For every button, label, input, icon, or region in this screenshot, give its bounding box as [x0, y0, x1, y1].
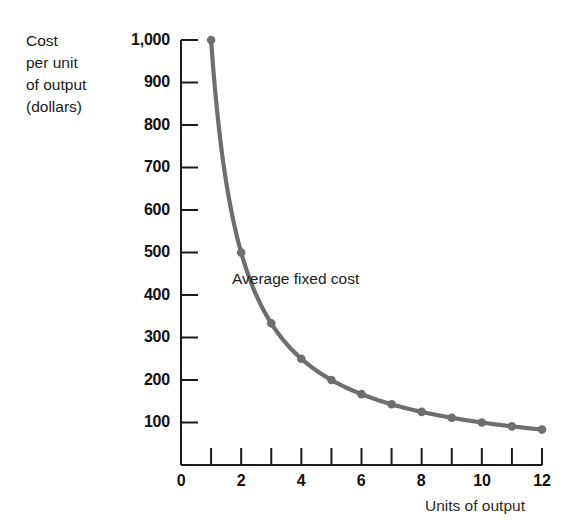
x-tick-label-12: 12	[533, 472, 550, 490]
x-tick-label-10: 10	[473, 472, 490, 490]
x-tick-label-4: 4	[297, 472, 306, 490]
chart-figure: Cost per unit of output (dollars) 1,000 …	[0, 0, 577, 531]
x-tick-label-6: 6	[357, 472, 366, 490]
x-tick-label-2: 2	[237, 472, 246, 490]
x-tick-label-group: 0 2 4 6 8 10 12	[0, 0, 577, 531]
series-annotation-average-fixed-cost: Average fixed cost	[232, 270, 359, 288]
x-axis-title: Units of output	[425, 497, 525, 515]
x-tick-label-8: 8	[417, 472, 426, 490]
x-tick-label-0: 0	[177, 472, 186, 490]
